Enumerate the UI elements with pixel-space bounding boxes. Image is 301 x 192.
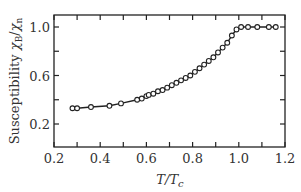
y-tick-label: 1.0 [29,20,50,35]
data-line [73,27,276,108]
x-tick-label: 0.4 [90,151,111,166]
x-tick-label: 1.2 [275,151,296,166]
y-tick-label: 0.6 [29,69,50,84]
data-point-marker [75,106,80,111]
data-point-marker [119,101,124,106]
data-point-marker [160,88,165,93]
data-point-marker [239,25,244,30]
data-point-marker [255,25,260,30]
data-point-marker [135,97,140,102]
y-axis-title: Susceptibility χB/χn [7,17,24,144]
data-point-marker [234,27,239,32]
y-axis-tick-labels: 0.20.61.0 [29,20,50,132]
data-point-marker [183,76,188,81]
data-point-marker [206,59,211,64]
x-tick-label: 1.0 [228,151,249,166]
data-point-marker [188,73,193,78]
x-axis-ticks [54,15,285,147]
x-axis-tick-labels: 0.20.40.60.81.01.2 [44,151,296,166]
data-point-marker [220,45,225,50]
data-point-marker [211,55,216,60]
y-axis-ticks [54,27,285,124]
plot-frame [54,15,285,147]
data-point-marker [273,25,278,30]
data-point-marker [169,83,174,88]
x-axis-title: T/Tc [156,172,184,189]
data-points [70,25,278,111]
x-tick-label: 0.2 [44,151,65,166]
data-point-marker [229,33,234,38]
data-point-marker [174,80,179,85]
data-point-marker [107,103,112,108]
data-point-marker [225,40,230,45]
data-point-marker [89,105,94,110]
data-point-marker [202,62,207,67]
data-point-marker [193,69,198,74]
y-tick-label: 0.2 [29,117,50,132]
data-point-marker [146,93,151,98]
data-point-marker [197,66,202,71]
data-point-marker [216,50,221,55]
data-point-marker [151,91,156,96]
data-point-marker [266,25,271,30]
data-point-marker [179,78,184,83]
data-point-marker [246,25,251,30]
data-point-marker [165,85,170,90]
x-tick-label: 0.6 [136,151,157,166]
data-point-marker [156,89,161,94]
x-tick-label: 0.8 [182,151,203,166]
susceptibility-chart: 0.20.40.60.81.01.2 0.20.61.0 T/Tc Suscep… [0,0,301,192]
data-point-marker [139,96,144,101]
